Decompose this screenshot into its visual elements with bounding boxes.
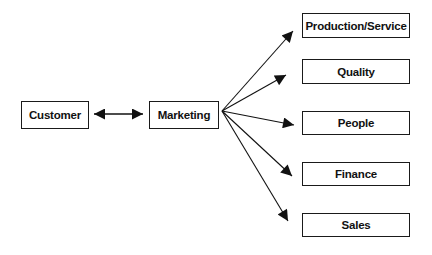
- node-finance: Finance: [302, 162, 410, 186]
- arrow-marketing-production: [222, 31, 293, 111]
- node-customer: Customer: [21, 101, 89, 129]
- node-marketing: Marketing: [149, 101, 219, 129]
- node-sales-label: Sales: [341, 219, 370, 231]
- node-marketing-label: Marketing: [158, 109, 211, 121]
- node-customer-label: Customer: [29, 109, 81, 121]
- node-quality-label: Quality: [337, 66, 375, 78]
- node-production-service-label: Production/Service: [305, 20, 406, 32]
- node-quality: Quality: [302, 59, 410, 84]
- node-people-label: People: [338, 117, 375, 129]
- arrow-marketing-sales: [222, 111, 288, 221]
- node-sales: Sales: [302, 213, 410, 237]
- arrow-marketing-quality: [222, 75, 286, 111]
- arrow-marketing-people: [222, 111, 294, 125]
- arrow-marketing-finance: [222, 111, 292, 176]
- node-production-service: Production/Service: [302, 13, 410, 38]
- node-people: People: [302, 111, 410, 135]
- node-finance-label: Finance: [335, 168, 377, 180]
